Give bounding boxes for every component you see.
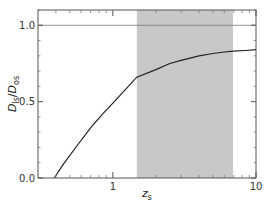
x-tick-label: 1 bbox=[110, 181, 116, 192]
y-axis-label: Dls/Dos bbox=[6, 76, 21, 112]
y-tick-label: 0.5 bbox=[19, 96, 35, 107]
x-tick-label: 10 bbox=[250, 181, 263, 192]
shaded-band bbox=[137, 10, 233, 178]
shaded-region bbox=[137, 10, 233, 178]
chart: 0.00.51.0110 zs Dls/Dos bbox=[0, 0, 271, 207]
y-tick-label: 0.0 bbox=[19, 173, 35, 184]
x-axis-label: zs bbox=[141, 187, 152, 202]
y-tick-label: 1.0 bbox=[19, 20, 35, 31]
